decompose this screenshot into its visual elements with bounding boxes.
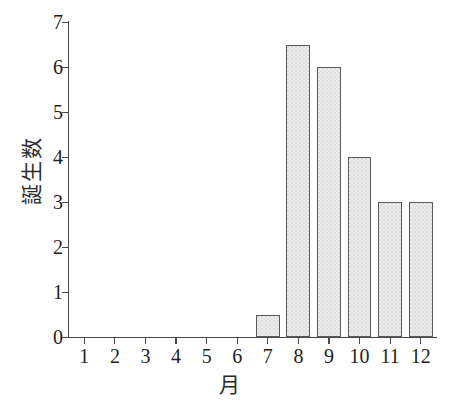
y-tick-label: 2: [53, 237, 63, 257]
x-tick-mark: [114, 337, 115, 344]
x-tick-mark: [84, 337, 85, 344]
y-tick-label: 3: [53, 192, 63, 212]
bar: [348, 157, 372, 337]
x-tick-label: 6: [232, 346, 242, 366]
x-tick-label: 12: [411, 346, 431, 366]
y-tick-mark: [62, 292, 69, 293]
x-tick-label: 2: [110, 346, 120, 366]
y-tick-mark: [62, 247, 69, 248]
bar: [256, 315, 280, 338]
x-tick-mark: [298, 337, 299, 344]
bar-chart: 誕生数 01234567 123456789101112 月: [0, 0, 458, 411]
x-tick-mark: [359, 337, 360, 344]
y-tick-mark: [62, 22, 69, 23]
x-axis-title: 月: [0, 368, 458, 398]
x-tick-mark: [206, 337, 207, 344]
y-axis-title: 誕生数: [14, 0, 44, 340]
bar: [286, 45, 310, 338]
x-axis-title-text: 月: [219, 373, 240, 397]
x-tick-label: 10: [350, 346, 370, 366]
y-tick-mark: [62, 202, 69, 203]
bar: [378, 202, 402, 337]
plot-area: 01234567 123456789101112: [69, 22, 436, 337]
y-tick-label: 1: [53, 282, 63, 302]
y-axis-title-text: 誕生数: [14, 136, 44, 205]
x-tick-label: 8: [293, 346, 303, 366]
y-tick-label: 4: [53, 147, 63, 167]
y-tick-mark: [62, 67, 69, 68]
x-tick-mark: [328, 337, 329, 344]
y-tick-label: 5: [53, 102, 63, 122]
y-tick-label: 7: [53, 12, 63, 32]
y-tick-label: 6: [53, 57, 63, 77]
x-tick-mark: [145, 337, 146, 344]
x-tick-mark: [390, 337, 391, 344]
x-tick-label: 1: [79, 346, 89, 366]
y-tick-mark: [62, 337, 69, 338]
x-tick-mark: [420, 337, 421, 344]
x-tick-label: 5: [202, 346, 212, 366]
x-tick-label: 9: [324, 346, 334, 366]
x-tick-mark: [267, 337, 268, 344]
x-tick-label: 11: [380, 346, 399, 366]
y-tick-label: 0: [53, 327, 63, 347]
bar: [317, 67, 341, 337]
x-tick-label: 4: [171, 346, 181, 366]
x-tick-mark: [175, 337, 176, 344]
bar: [409, 202, 433, 337]
y-tick-mark: [62, 112, 69, 113]
x-tick-label: 3: [140, 346, 150, 366]
x-tick-mark: [237, 337, 238, 344]
x-tick-label: 7: [263, 346, 273, 366]
y-tick-mark: [62, 157, 69, 158]
